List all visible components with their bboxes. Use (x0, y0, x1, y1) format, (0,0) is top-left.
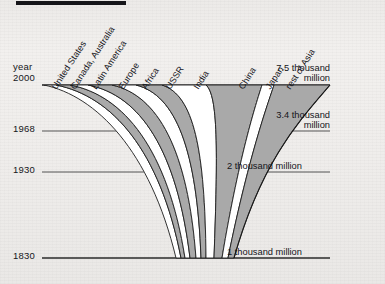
value-label-3400: 3.4 thousand million (246, 110, 330, 131)
value-label-7500-line2: million (304, 73, 330, 83)
axis-tick-1830: 1830 (13, 251, 35, 262)
value-label-3400-line1: 3.4 thousand (276, 110, 330, 120)
axis-year-caption: year (13, 62, 32, 73)
value-label-2000m: 2 thousand million (227, 161, 302, 171)
axis-tick-2000: 2000 (13, 73, 35, 84)
figure-stage: year 2000 1968 1930 1830 7.5 thousand mi… (0, 0, 385, 284)
value-label-3400-line2: million (304, 120, 330, 130)
axis-tick-1968: 1968 (13, 124, 35, 135)
population-funnel-svg (0, 0, 385, 284)
value-label-1000m: 1 thousand million (227, 247, 302, 257)
axis-tick-1930: 1930 (13, 165, 35, 176)
